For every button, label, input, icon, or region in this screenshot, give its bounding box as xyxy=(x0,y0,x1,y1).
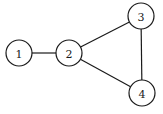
node-1: 1 xyxy=(6,40,32,66)
node-label: 1 xyxy=(16,48,23,61)
edge-2-3 xyxy=(81,22,130,47)
node-4: 4 xyxy=(129,80,155,106)
node-label: 3 xyxy=(138,11,145,24)
edge-2-4 xyxy=(80,59,130,87)
node-2: 2 xyxy=(56,40,82,66)
edges-group xyxy=(32,22,142,87)
node-3: 3 xyxy=(128,3,154,29)
graph-diagram: 1234 xyxy=(0,0,163,114)
edge-3-4 xyxy=(141,29,142,80)
node-label: 2 xyxy=(66,48,73,61)
nodes-group: 1234 xyxy=(6,3,155,106)
node-label: 4 xyxy=(139,88,146,101)
